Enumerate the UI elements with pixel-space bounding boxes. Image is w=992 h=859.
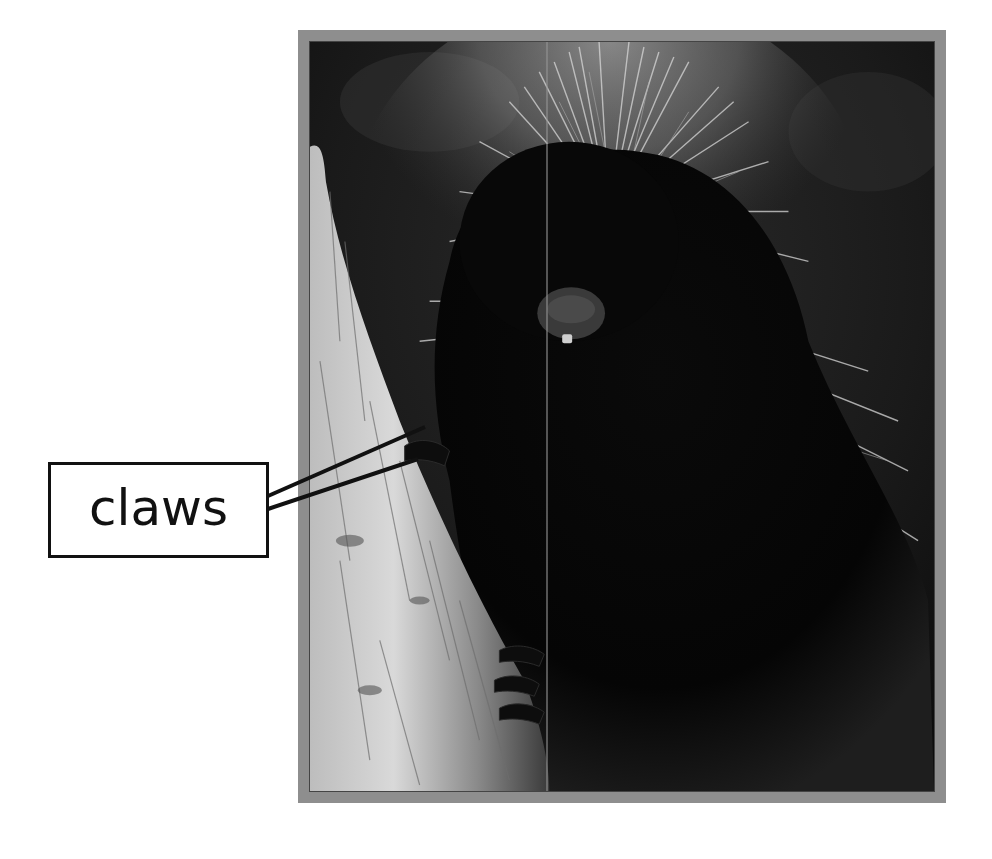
photo-frame [298, 30, 946, 803]
callout-label: claws [89, 483, 228, 533]
claws-callout-box: claws [48, 462, 269, 558]
page-gutter-line [546, 42, 548, 791]
porcupine-photo [309, 41, 935, 792]
porcupine-illustration [310, 42, 934, 791]
